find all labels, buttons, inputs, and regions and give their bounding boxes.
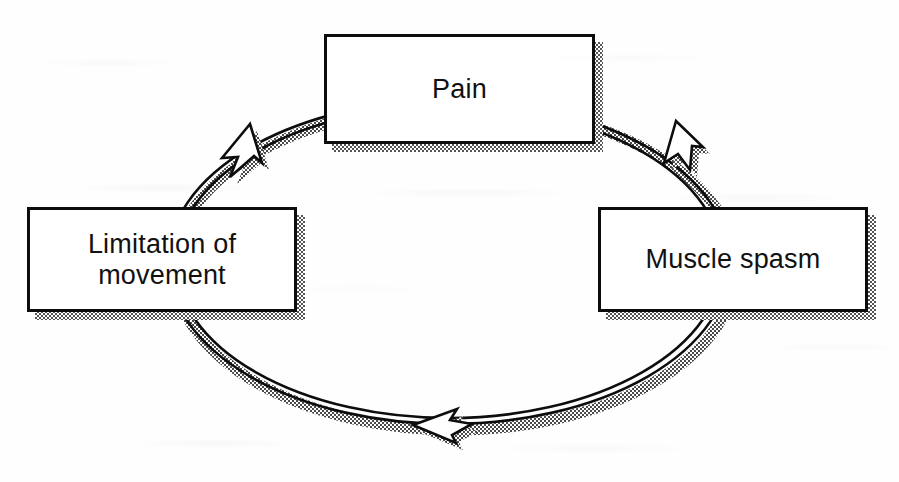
node-limitation-of-movement-label: Limitation of movement: [88, 229, 236, 289]
node-limitation-of-movement[interactable]: Limitation of movement: [27, 207, 297, 312]
node-pain-label: Pain: [432, 74, 487, 104]
arrowhead-to-limitation: [413, 409, 479, 450]
node-muscle-spasm[interactable]: Muscle spasm: [598, 207, 868, 312]
node-pain[interactable]: Pain: [324, 34, 595, 144]
diagram-canvas: Pain Limitation of movement Muscle spasm: [0, 0, 899, 482]
node-muscle-spasm-label: Muscle spasm: [646, 244, 821, 274]
